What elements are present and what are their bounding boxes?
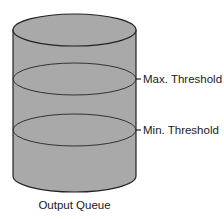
queue-diagram: Max. Threshold Min. Threshold Output Que… [0, 0, 224, 219]
max-threshold-label: Max. Threshold [143, 73, 222, 85]
min-threshold-label: Min. Threshold [143, 124, 219, 136]
cylinder-top [13, 14, 136, 46]
queue-title: Output Queue [38, 199, 110, 211]
cylinder-body [13, 30, 136, 192]
